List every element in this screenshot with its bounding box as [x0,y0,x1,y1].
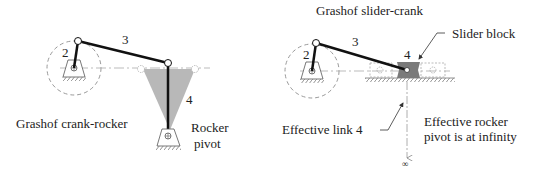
slider-crank-diagram: Grashof slider-crank 2 [282,3,517,169]
rocker-extreme-right [192,66,199,73]
slider-pin [405,68,410,73]
joint-a [75,38,82,45]
slider-extreme-right-pin [430,67,436,73]
joint-a-2 [313,40,320,47]
rocker-ground-pivot [156,129,181,150]
slider-rail-hatch [365,78,455,82]
rocker-extreme-left [138,66,145,73]
slider-crank-title: Grashof slider-crank [316,3,423,18]
effective-link-leader [380,103,403,130]
link-4-label-2: 4 [404,47,411,62]
link-4-label: 4 [186,92,193,107]
infinity-symbol: ∞ [402,159,408,169]
crank-rocker-title: Grashof crank-rocker [16,116,128,131]
slider-block-leader [419,33,445,59]
link-3-coupler-2 [316,43,407,70]
link-2-label: 2 [62,45,69,60]
infinity-label-line2: pivot is at infinity [424,129,517,144]
joint-b [165,60,172,67]
infinity-label-line1: Effective rocker [424,114,509,129]
link-3-label: 3 [122,32,129,47]
rocker-pivot-label-line1: Rocker [191,120,229,135]
slider-extreme-left-pin [377,67,383,73]
slider-block-label: Slider block [452,26,516,41]
crank-rocker-diagram: 2 3 4 Grashof crank-rocker Rocker pivot [16,32,229,151]
effective-link-label: Effective link 4 [282,122,363,137]
link-2-label-2: 2 [303,47,310,62]
link-3-label-2: 3 [352,34,359,49]
diagram-canvas: 2 3 4 Grashof crank-rocker Rocker pivot … [0,0,533,177]
slider-extreme-right [421,63,445,77]
rocker-pivot-label-line2: pivot [194,136,221,151]
